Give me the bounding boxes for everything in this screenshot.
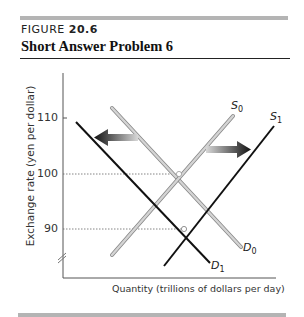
y-axis-label: Exchange rate (yen per dollar) xyxy=(24,66,36,266)
equilibrium-point-e0 xyxy=(176,171,181,176)
label-s1: S1 xyxy=(270,110,282,125)
tick-label-110: 110 xyxy=(37,111,58,124)
label-d1: D1 xyxy=(211,259,225,274)
arrow-right-icon xyxy=(206,141,251,158)
tick-label-100: 100 xyxy=(37,167,58,180)
axis-break-icon xyxy=(58,253,66,263)
equilibrium-point-e1 xyxy=(181,226,186,231)
bottom-decorative-bar xyxy=(18,313,286,317)
x-axis-label: Quantity (trillions of dollars per day) xyxy=(112,283,285,294)
tick-label-90: 90 xyxy=(44,222,58,235)
label-d0: D0 xyxy=(243,241,257,256)
label-s0: S0 xyxy=(231,99,243,114)
